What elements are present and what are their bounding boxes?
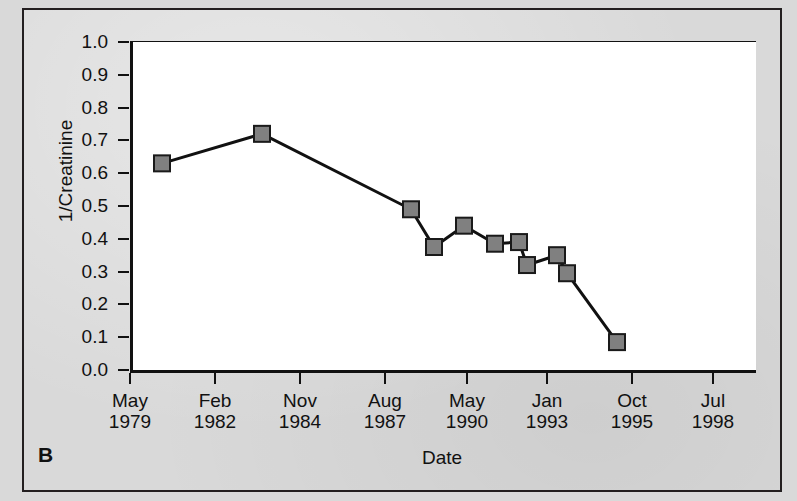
data-point-marker — [511, 234, 527, 250]
data-point-marker — [154, 155, 170, 171]
series-markers — [154, 126, 625, 350]
data-series — [0, 0, 797, 501]
data-point-marker — [426, 239, 442, 255]
data-point-marker — [559, 265, 575, 281]
data-point-marker — [519, 257, 535, 273]
data-point-marker — [456, 218, 472, 234]
data-point-marker — [549, 247, 565, 263]
series-line — [162, 134, 617, 342]
data-point-marker — [403, 201, 419, 217]
data-point-marker — [487, 236, 503, 252]
data-point-marker — [609, 334, 625, 350]
figure-panel: 1.00.90.80.70.60.50.40.30.20.10.0 May197… — [0, 0, 797, 501]
data-point-marker — [254, 126, 270, 142]
